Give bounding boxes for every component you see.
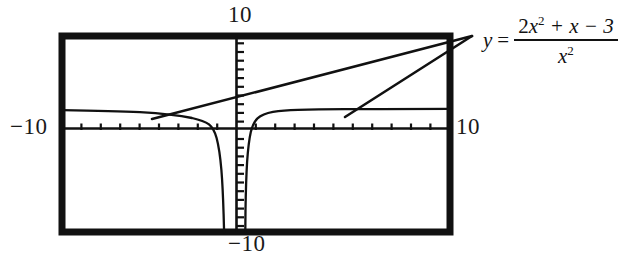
equation-lhs: y: [483, 28, 495, 53]
equation-numerator: 2x2 + x − 3: [514, 14, 618, 39]
graph-figure: 10 −10 −10 10 y = 2x2 + x − 3 x2: [0, 0, 641, 264]
viewing-window-frame: [62, 36, 450, 232]
axis-label-bottom: −10: [228, 231, 265, 257]
equation-denominator: x2: [554, 41, 578, 67]
axis-label-right: 10: [456, 114, 480, 140]
axis-label-top: 10: [228, 2, 252, 28]
denominator-variable: x: [558, 44, 567, 68]
axis-label-left: −10: [10, 114, 47, 140]
equation-fraction: 2x2 + x − 3 x2: [514, 14, 618, 67]
numerator-variable: x: [529, 14, 538, 38]
numerator-remainder: + x − 3: [550, 14, 614, 38]
denominator-exponent: 2: [567, 43, 574, 58]
equation-relation: =: [495, 28, 514, 53]
numerator-coefficient: 2: [518, 14, 529, 38]
numerator-exponent: 2: [538, 13, 545, 28]
equation-annotation: y = 2x2 + x − 3 x2: [483, 14, 618, 67]
